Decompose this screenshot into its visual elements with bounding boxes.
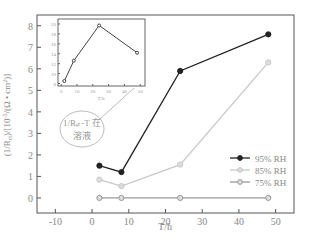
svg-text:50: 50 [138, 89, 144, 94]
y-tick: 3 [28, 128, 33, 139]
data-point [266, 60, 271, 65]
y-tick: 4 [28, 107, 33, 118]
svg-text:10: 10 [74, 89, 80, 94]
data-point [178, 68, 183, 73]
svg-text:14: 14 [51, 52, 57, 57]
x-tick: 0 [90, 216, 95, 227]
annotation-ellipse [60, 111, 104, 147]
x-axis-label: T/h [158, 221, 172, 232]
data-point [178, 162, 183, 167]
legend-entry: 95% RH [255, 154, 287, 164]
svg-text:30: 30 [106, 89, 112, 94]
data-point [119, 170, 124, 175]
y-tick: 2 [28, 150, 33, 161]
x-tick: 30 [197, 216, 207, 227]
y-tick: 5 [28, 85, 33, 96]
chart: -100102030405001234567895% RH85% RH75% R… [0, 0, 309, 244]
x-tick: 10 [124, 216, 134, 227]
svg-text:10: 10 [51, 72, 57, 77]
y-tick: 6 [28, 64, 33, 75]
data-point [97, 177, 102, 182]
data-point [266, 195, 271, 200]
inset-frame [58, 19, 145, 86]
y-tick: 1 [28, 171, 33, 182]
y-tick: 0 [28, 193, 33, 204]
data-point [97, 195, 102, 200]
svg-text:20: 20 [90, 89, 96, 94]
data-point [97, 163, 102, 168]
svg-text:0: 0 [60, 89, 63, 94]
data-point [119, 183, 124, 188]
svg-text:20: 20 [51, 22, 57, 27]
legend-entry: 75% RH [255, 178, 287, 188]
data-point [178, 195, 183, 200]
svg-text:12: 12 [51, 62, 57, 67]
svg-text:18: 18 [51, 32, 57, 37]
data-point [266, 32, 271, 37]
data-point [119, 195, 124, 200]
legend-entry: 85% RH [255, 166, 287, 176]
svg-text:T/h: T/h [98, 96, 105, 101]
svg-text:1/Rₑₜ-T 在: 1/Rₑₜ-T 在 [63, 117, 101, 128]
y-tick: 8 [28, 21, 33, 32]
svg-text:8: 8 [54, 82, 57, 87]
x-tick: 40 [234, 216, 244, 227]
y-tick: 7 [28, 42, 33, 53]
svg-text:溶液: 溶液 [73, 130, 91, 141]
y-axis-label: (1/Rct)/[10-5/(Ω • cm2)] [2, 74, 13, 157]
svg-text:16: 16 [51, 42, 57, 47]
svg-text:40: 40 [122, 89, 128, 94]
x-tick: 50 [271, 216, 281, 227]
x-tick: -10 [49, 216, 62, 227]
